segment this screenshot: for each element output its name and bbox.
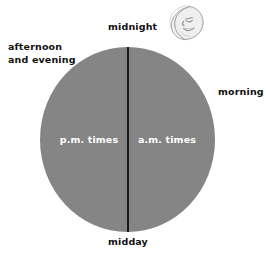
am-half-label: a.m. times (133, 134, 201, 145)
pm-half-label: p.m. times (55, 134, 123, 145)
clock-halves-diagram: p.m. times a.m. times midnight afternoon… (0, 0, 266, 257)
midnight-midday-divider-line (127, 47, 129, 232)
midday-label: midday (108, 236, 148, 249)
crescent-moon-icon (165, 2, 207, 44)
midnight-label: midnight (108, 21, 157, 34)
afternoon-and-evening-label: afternoon and evening (8, 41, 76, 66)
morning-label: morning (218, 86, 264, 99)
